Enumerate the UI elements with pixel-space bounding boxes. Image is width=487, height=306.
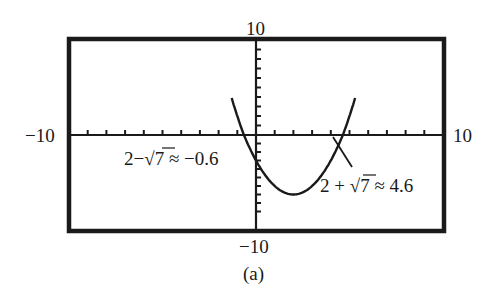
annotation-right-suffix: ≈ 4.6: [370, 175, 414, 196]
annotation-right-radicand: 7: [360, 175, 370, 196]
svg-text:2−√7 ≈ −0.6: 2−√7 ≈ −0.6: [124, 148, 219, 169]
y-max-label: 10: [246, 18, 265, 39]
sqrt-symbol: √: [350, 175, 361, 196]
graph-plot: 10 −10 −10 10 2−√7 ≈ −0.6 2 + √7 ≈ 4.6 (…: [0, 0, 487, 306]
y-min-label: −10: [239, 236, 269, 257]
annotation-left-radicand: 7: [155, 148, 165, 169]
annotation-left-suffix: ≈ −0.6: [164, 148, 218, 169]
annotation-left-prefix: 2−: [124, 148, 144, 169]
sqrt-symbol: √: [144, 148, 155, 169]
x-min-label: −10: [25, 125, 55, 146]
annotation-right-root: 2 + √7 ≈ 4.6: [320, 175, 413, 196]
x-max-label: 10: [453, 125, 472, 146]
svg-text:2 + √7 ≈ 4.6: 2 + √7 ≈ 4.6: [320, 175, 413, 196]
figure-caption: (a): [243, 263, 264, 285]
annotation-left-root: 2−√7 ≈ −0.6: [124, 148, 219, 169]
annotation-right-prefix: 2 +: [320, 175, 350, 196]
